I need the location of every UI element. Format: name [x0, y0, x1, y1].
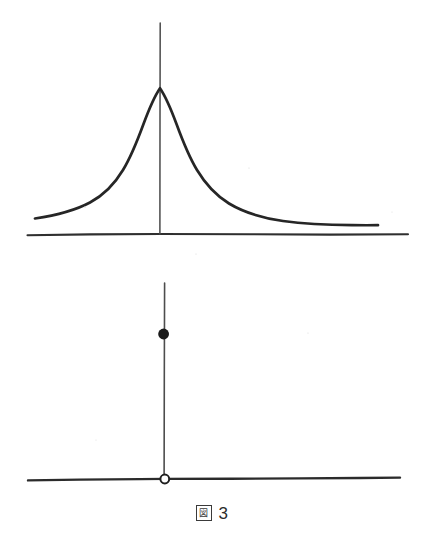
bottom-panel-y-axis-spike [164, 283, 165, 479]
scan-speckle [391, 211, 392, 212]
figure-caption: 図3 [0, 505, 424, 522]
top-panel-x-axis [28, 234, 409, 235]
scan-speckle [248, 167, 249, 168]
cjk-zu-glyph-icon: 図 [196, 505, 212, 521]
figure-caption-number: 3 [219, 505, 229, 522]
figure-3-drawing [0, 0, 424, 550]
figure-background [0, 0, 424, 550]
scan-speckle [307, 332, 308, 333]
scan-speckle [95, 439, 96, 440]
scan-speckle [84, 206, 85, 207]
point-mass-filled-dot [158, 329, 169, 340]
figure-caption-inner: 図3 [196, 505, 229, 522]
scan-speckle [195, 253, 196, 254]
origin-open-circle [160, 475, 169, 484]
figure-3-container: 図3 [0, 0, 424, 550]
